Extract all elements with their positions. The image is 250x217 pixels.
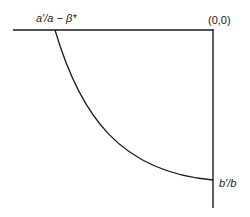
label-bottom-right: b′/b <box>219 178 236 189</box>
label-origin: (0,0) <box>208 15 231 26</box>
frontier-diagram <box>0 0 250 217</box>
frontier-curve <box>55 30 213 180</box>
label-top-left: a′/a − β* <box>36 13 76 24</box>
